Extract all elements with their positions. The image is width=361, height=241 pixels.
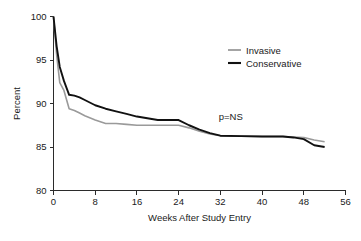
y-tick-label: 80 <box>36 185 47 196</box>
chart-figure: 80859095100 08162432404856 InvasiveConse… <box>0 0 361 241</box>
x-tick-label: 40 <box>257 196 268 207</box>
y-tick-label: 90 <box>36 98 47 109</box>
x-tick-label: 56 <box>340 196 351 207</box>
x-axis-title: Weeks After Study Entry <box>148 212 251 223</box>
y-tick-label: 100 <box>31 11 47 22</box>
x-tick-label: 0 <box>51 196 56 207</box>
y-axis-title: Percent <box>11 87 22 120</box>
annotation-pvalue: p=NS <box>219 111 243 122</box>
x-axis-tick-group: 08162432404856 <box>51 191 351 207</box>
legend-label-conservative: Conservative <box>246 58 301 69</box>
series-line-invasive <box>54 17 325 142</box>
annotation-group: p=NS <box>219 111 243 122</box>
line-chart-svg: 80859095100 08162432404856 InvasiveConse… <box>0 0 361 241</box>
x-tick-label: 8 <box>93 196 98 207</box>
x-tick-label: 32 <box>215 196 226 207</box>
legend-label-invasive: Invasive <box>246 45 281 56</box>
x-tick-label: 24 <box>173 196 184 207</box>
x-tick-label: 48 <box>298 196 309 207</box>
series-group <box>54 17 325 148</box>
y-tick-label: 85 <box>36 141 47 152</box>
y-tick-label: 95 <box>36 54 47 65</box>
y-axis-tick-group: 80859095100 <box>31 11 54 196</box>
x-tick-label: 16 <box>132 196 143 207</box>
chart-legend: InvasiveConservative <box>228 45 301 69</box>
